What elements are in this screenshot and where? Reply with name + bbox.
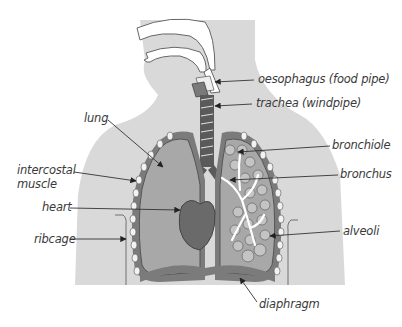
label-heart: heart [42,201,72,214]
label-intercostal-muscle-line2: muscle [17,178,57,191]
label-ribcage: ribcage [34,233,76,246]
label-bronchus: bronchus [340,168,392,181]
label-lung: lung [84,112,108,125]
label-intercostal-muscle-line1: intercostal [17,164,76,177]
label-alveoli: alveoli [343,225,379,238]
respiratory-system-diagram: oesophagus (food pipe) trachea (windpipe… [0,0,402,327]
label-bronchiole: bronchiole [332,139,390,152]
label-trachea: trachea (windpipe) [256,97,361,110]
label-diaphragm: diaphragm [259,298,320,311]
label-oesophagus: oesophagus (food pipe) [258,73,390,86]
